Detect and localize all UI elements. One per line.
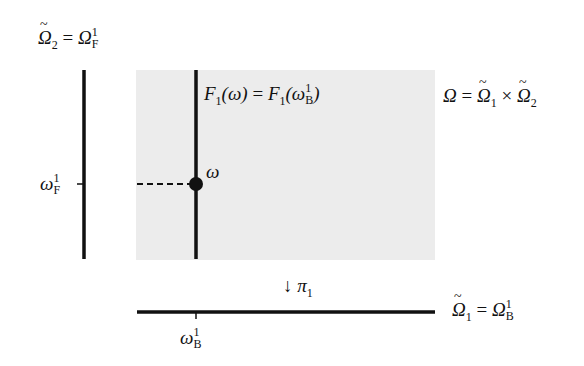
subscript: B xyxy=(193,338,201,350)
label-product-space: Ω = Ω1 × Ω2 xyxy=(443,86,537,105)
label-projection: ↓ π1 xyxy=(283,276,313,295)
omega-symbol: Ω xyxy=(78,27,92,48)
label-omega1-tilde: Ω1 = Ω1B xyxy=(452,300,514,324)
omega-symbol: Ω xyxy=(443,85,457,106)
subscript: B xyxy=(305,94,313,106)
omega-symbol: Ω xyxy=(477,86,491,105)
subscript: B xyxy=(506,310,514,322)
subscript: 1 xyxy=(216,94,222,108)
function-argument: (ω xyxy=(286,83,306,104)
equals-sign: = xyxy=(477,299,488,320)
down-arrow-icon: ↓ xyxy=(283,275,293,296)
point-omega xyxy=(189,177,203,191)
subscript: 1 xyxy=(307,286,313,300)
subscript: 1 xyxy=(280,94,286,108)
omega-symbol: ω xyxy=(180,327,193,348)
omega-symbol: Ω xyxy=(452,300,466,319)
function-argument: (ω) xyxy=(222,83,248,104)
equals-sign: = xyxy=(462,85,473,106)
times-sign: × xyxy=(501,85,512,106)
label-fiber-equation: F1(ω) = F1(ω1B) xyxy=(204,84,320,108)
omega-symbol: Ω xyxy=(38,28,52,47)
subscript: 2 xyxy=(531,96,537,110)
label-omega-b: ω1B xyxy=(180,328,201,352)
omega-symbol: Ω xyxy=(517,86,531,105)
subscript: 2 xyxy=(52,38,58,52)
function-symbol: F xyxy=(204,83,216,104)
function-symbol: F xyxy=(268,83,280,104)
subscript: 1 xyxy=(466,310,472,324)
equals-sign: = xyxy=(63,27,74,48)
subscript: F xyxy=(92,38,99,50)
equals-sign: = xyxy=(252,83,263,104)
omega-symbol: ω xyxy=(40,173,53,194)
omega-symbol: Ω xyxy=(492,299,506,320)
closing-paren: ) xyxy=(313,83,319,104)
subscript: F xyxy=(53,184,60,196)
label-omega-f: ω1F xyxy=(40,174,60,198)
subscript: 1 xyxy=(491,96,497,110)
label-point-omega: ω xyxy=(206,162,219,181)
pi-symbol: π xyxy=(297,275,307,296)
label-omega2-tilde: Ω2 = Ω1F xyxy=(38,28,98,52)
